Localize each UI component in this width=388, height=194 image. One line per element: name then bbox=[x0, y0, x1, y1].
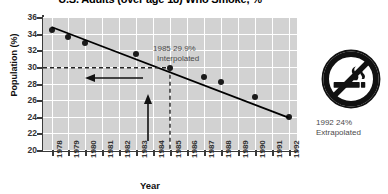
x-axis-tick-label: 1980 bbox=[89, 140, 98, 158]
x-axis-tick bbox=[153, 150, 155, 156]
y-axis-tick-label: 24 bbox=[3, 112, 37, 122]
up-arrow-head bbox=[144, 94, 152, 104]
x-axis-tick-label: 1988 bbox=[224, 140, 233, 158]
extrapolated-callout: 1992 24% Extrapolated bbox=[316, 118, 361, 137]
y-axis-tick-label: 22 bbox=[3, 128, 37, 138]
x-axis-tick bbox=[85, 150, 87, 156]
x-axis-tick bbox=[255, 150, 257, 156]
interpolated-callout: 1985 29.9% Interpolated bbox=[153, 44, 199, 63]
x-axis-tick bbox=[238, 150, 240, 156]
extrapolated-callout-line2: Extrapolated bbox=[316, 128, 361, 138]
y-axis-tick-label: 20 bbox=[3, 145, 37, 155]
x-axis-tick-label: 1983 bbox=[140, 140, 149, 158]
extrapolated-callout-line1: 1992 24% bbox=[316, 118, 361, 128]
no-smoking-icon bbox=[320, 48, 382, 110]
interpolated-callout-line1: 1985 29.9% bbox=[153, 44, 199, 54]
x-axis-tick bbox=[102, 150, 104, 156]
x-axis-tick bbox=[187, 150, 189, 156]
x-axis-tick-label: 1990 bbox=[258, 140, 267, 158]
x-axis-tick-labels: 1978197919801981198219831984198519861987… bbox=[0, 158, 388, 188]
interpolated-callout-line2: Interpolated bbox=[153, 54, 199, 64]
y-axis-tick-label: 32 bbox=[3, 45, 37, 55]
plot-overlay bbox=[43, 17, 297, 150]
x-axis-tick bbox=[272, 150, 274, 156]
y-axis-tick-label: 26 bbox=[3, 95, 37, 105]
x-axis-tick-label: 1981 bbox=[106, 140, 115, 158]
x-axis-tick-label: 1982 bbox=[123, 140, 132, 158]
x-axis-tick bbox=[119, 150, 121, 156]
y-axis-tick-label: 34 bbox=[3, 29, 37, 39]
x-axis-tick bbox=[204, 150, 206, 156]
y-axis-tick-label: 28 bbox=[3, 79, 37, 89]
x-axis-tick bbox=[221, 150, 223, 156]
x-axis-tick-label: 1985 bbox=[174, 140, 183, 158]
x-axis-tick bbox=[170, 150, 172, 156]
chart-title: U.S. Adults (over age 18) Who Smoke, % bbox=[0, 0, 320, 5]
x-axis-tick bbox=[136, 150, 138, 156]
x-axis-tick-label: 1984 bbox=[157, 140, 166, 158]
x-axis-tick bbox=[289, 150, 291, 156]
x-axis-tick bbox=[52, 150, 54, 156]
x-axis-tick-label: 1989 bbox=[241, 140, 250, 158]
x-axis-tick-label: 1979 bbox=[72, 140, 81, 158]
left-arrow-head bbox=[85, 74, 95, 82]
x-axis-tick bbox=[68, 150, 70, 156]
x-axis-tick-label: 1978 bbox=[55, 140, 64, 158]
x-axis-tick-label: 1991 bbox=[275, 140, 284, 158]
x-axis-tick-label: 1986 bbox=[190, 140, 199, 158]
plot-area bbox=[43, 17, 297, 150]
y-axis-tick-label: 36 bbox=[3, 12, 37, 22]
y-axis-tick-label: 30 bbox=[3, 62, 37, 72]
x-axis-tick-label: 1992 bbox=[292, 140, 301, 158]
x-axis-title: Year bbox=[110, 180, 190, 191]
chart-figure: U.S. Adults (over age 18) Who Smoke, % P… bbox=[0, 0, 388, 194]
x-axis-tick-label: 1987 bbox=[207, 140, 216, 158]
